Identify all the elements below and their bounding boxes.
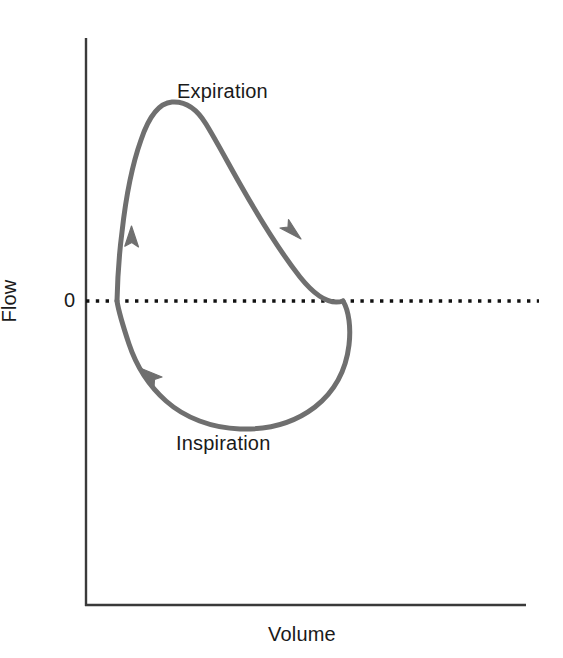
inspiratory-limb-curve [117,301,350,429]
y-axis-zero-tick-label: 0 [64,289,75,312]
x-axis-label: Volume [268,623,336,646]
flow-volume-loop-figure: Flow 0 Volume Expiration Inspiration [0,0,563,658]
y-axis-label: Flow [0,256,21,346]
inspiration-curve-label: Inspiration [176,432,270,455]
flow-volume-loop-plot [0,0,563,658]
expiration-curve-label: Expiration [177,80,268,103]
expiratory-ascending-arrow-icon [125,226,139,247]
expiratory-limb-curve [117,102,343,302]
expiratory-descending-arrow-icon [280,220,301,240]
